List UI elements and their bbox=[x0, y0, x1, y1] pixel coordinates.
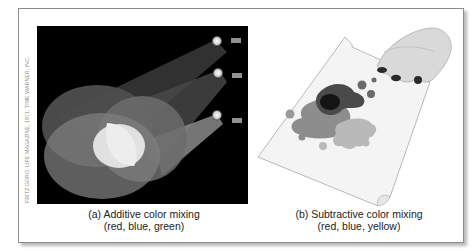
caption-subtractive: (b) Subtractive color mixing (red, blue,… bbox=[289, 208, 429, 232]
additive-mixing-photo bbox=[37, 26, 248, 204]
subtractive-mixing-illustration bbox=[250, 22, 460, 207]
caption-additive-colors: (red, blue, green) bbox=[78, 220, 210, 232]
photo-credit: FRITZ GORO, LIFE MAGAZINE, 1971, TIME WA… bbox=[22, 53, 32, 203]
figure: FRITZ GORO, LIFE MAGAZINE, 1971, TIME WA… bbox=[0, 0, 474, 251]
caption-subtractive-colors: (red, blue, yellow) bbox=[289, 220, 429, 232]
caption-additive: (a) Additive color mixing (red, blue, gr… bbox=[78, 208, 210, 232]
caption-additive-title: (a) Additive color mixing bbox=[78, 208, 210, 220]
caption-subtractive-title: (b) Subtractive color mixing bbox=[289, 208, 429, 220]
